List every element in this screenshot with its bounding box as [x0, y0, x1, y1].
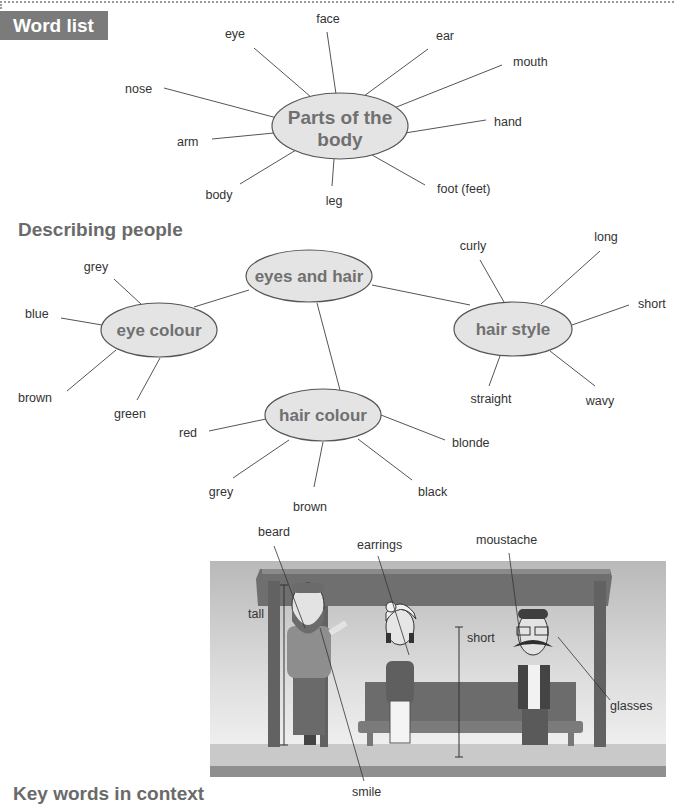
svg-text:eyes and hair: eyes and hair	[255, 267, 364, 286]
word-ear: ear	[436, 29, 454, 43]
describing-people-heading: Describing people	[18, 219, 183, 241]
bus-stop-illustration	[210, 561, 666, 777]
svg-text:body: body	[317, 129, 363, 150]
word-body: body	[205, 188, 233, 202]
word-leg: leg	[326, 194, 343, 208]
svg-text:black: black	[418, 485, 448, 499]
label-earrings: earrings	[357, 538, 402, 552]
word-arm: arm	[177, 135, 199, 149]
svg-text:green: green	[114, 407, 146, 421]
label-glasses: glasses	[610, 699, 652, 713]
word-mouth: mouth	[513, 55, 548, 69]
svg-text:hair style: hair style	[476, 320, 551, 339]
mind-map-diagrams: Parts of the body face eye ear mouth nos…	[0, 0, 674, 560]
label-smile: smile	[352, 785, 381, 799]
word-face: face	[316, 12, 340, 26]
svg-text:eye colour: eye colour	[116, 321, 201, 340]
svg-text:Parts of the: Parts of the	[288, 107, 393, 128]
hub-node-eyes-and-hair: eyes and hair	[246, 250, 372, 302]
label-short: short	[467, 631, 495, 645]
svg-text:wavy: wavy	[585, 394, 615, 408]
key-words-heading: Key words in context	[13, 783, 204, 805]
label-beard: beard	[258, 525, 290, 539]
label-moustache: moustache	[476, 533, 537, 547]
svg-text:short: short	[638, 297, 666, 311]
svg-text:curly: curly	[460, 239, 487, 253]
svg-text:straight: straight	[471, 392, 513, 406]
svg-text:brown: brown	[18, 391, 52, 405]
svg-text:red: red	[179, 426, 197, 440]
body-center-node: Parts of the body	[272, 93, 408, 159]
svg-text:brown: brown	[293, 500, 327, 514]
label-tall: tall	[248, 607, 264, 621]
word-eye: eye	[225, 27, 245, 41]
svg-text:blonde: blonde	[452, 436, 490, 450]
node-eye-colour: eye colour	[101, 303, 217, 357]
svg-text:grey: grey	[209, 485, 234, 499]
word-foot: foot (feet)	[437, 182, 491, 196]
scene-drawing	[210, 561, 666, 777]
word-nose: nose	[125, 82, 152, 96]
word-hand: hand	[494, 115, 522, 129]
node-hair-style: hair style	[454, 302, 572, 356]
svg-text:long: long	[594, 230, 618, 244]
svg-text:blue: blue	[25, 307, 49, 321]
node-hair-colour: hair colour	[265, 389, 381, 441]
svg-text:grey: grey	[84, 260, 109, 274]
svg-text:hair colour: hair colour	[279, 406, 367, 425]
